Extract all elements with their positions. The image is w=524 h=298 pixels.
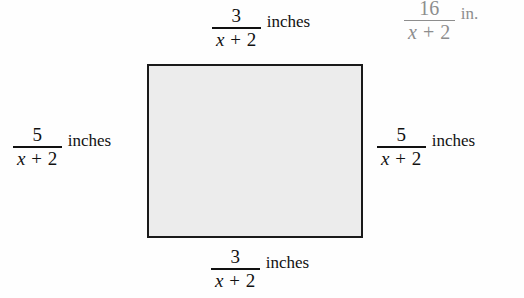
rectangle-shape bbox=[147, 64, 363, 238]
fraction-numerator: 3 bbox=[227, 6, 247, 27]
denominator-rest: + 2 bbox=[423, 21, 451, 43]
fraction-right: 5 x + 2 bbox=[377, 125, 426, 168]
fraction-denominator: x + 2 bbox=[377, 148, 426, 169]
fraction-denominator: x + 2 bbox=[212, 29, 261, 50]
fraction-denominator: x + 2 bbox=[404, 21, 455, 43]
unit-label: inches bbox=[432, 132, 475, 149]
unit-label: inches bbox=[266, 254, 309, 271]
unit-label: inches bbox=[267, 13, 310, 30]
denominator-rest: + 2 bbox=[395, 148, 421, 169]
variable-x: x bbox=[17, 148, 26, 169]
dimension-label-left: 5 x + 2 inches bbox=[13, 125, 111, 168]
fraction-denominator: x + 2 bbox=[13, 148, 62, 169]
fraction-denominator: x + 2 bbox=[211, 270, 260, 291]
geometry-figure: 3 x + 2 inches 16 x + 2 in. 5 x + 2 inch… bbox=[0, 0, 524, 298]
fraction-bottom: 3 x + 2 bbox=[211, 247, 260, 290]
variable-x: x bbox=[381, 148, 390, 169]
dimension-label-bottom: 3 x + 2 inches bbox=[211, 247, 309, 290]
fraction-numerator: 3 bbox=[226, 247, 246, 268]
dimension-label-right: 5 x + 2 inches bbox=[377, 125, 475, 168]
variable-x: x bbox=[216, 29, 225, 50]
fraction-left: 5 x + 2 bbox=[13, 125, 62, 168]
unit-label: inches bbox=[68, 132, 111, 149]
dimension-label-overlay: 16 x + 2 in. bbox=[404, 0, 478, 43]
fraction-top: 3 x + 2 bbox=[212, 6, 261, 49]
variable-x: x bbox=[408, 21, 417, 43]
fraction-numerator: 16 bbox=[414, 0, 444, 20]
dimension-label-top: 3 x + 2 inches bbox=[212, 6, 310, 49]
fraction-numerator: 5 bbox=[392, 125, 412, 146]
denominator-rest: + 2 bbox=[229, 270, 255, 291]
denominator-rest: + 2 bbox=[230, 29, 256, 50]
unit-label: in. bbox=[461, 5, 478, 22]
variable-x: x bbox=[215, 270, 224, 291]
fraction-overlay: 16 x + 2 bbox=[404, 0, 455, 43]
denominator-rest: + 2 bbox=[31, 148, 57, 169]
fraction-numerator: 5 bbox=[28, 125, 48, 146]
